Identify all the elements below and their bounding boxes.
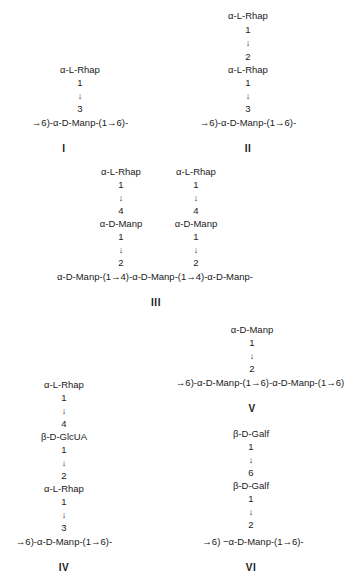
linkage-arrow-icon: ↓ [246,37,251,49]
linkage-arrow-icon: ↓ [194,244,199,256]
linkage-arrow-icon: ↓ [62,405,67,417]
residue-rhap: α-L-Rhap [44,483,84,495]
residue-manp: α-D-Manp [175,218,217,230]
residue-rhap: α-L-Rhap [176,166,216,178]
residue-manp: α-D-Manp [100,218,142,230]
linkage-position: 1 [193,179,198,191]
linkage-arrow-icon: ↓ [194,192,199,204]
structure-label: V [248,403,255,415]
structure-label: IV [59,562,69,574]
backbone: →6)-α-D-Manp-(1→6)- [32,117,128,129]
structure-label: VI [246,562,256,574]
linkage-arrow-icon: ↓ [250,350,255,362]
linkage-arrow-icon: ↓ [62,457,67,469]
structure-label: III [151,297,161,309]
structure-label: I [62,143,65,155]
linkage-arrow-icon: ↓ [119,244,124,256]
linkage-position: 1 [248,493,253,505]
residue-rhap: α-L-Rhap [44,379,84,391]
linkage-position: 4 [193,205,198,217]
backbone: →6) −α-D-Manp-(1→6)- [202,536,303,548]
linkage-position: 3 [61,522,66,534]
linkage-position: 1 [248,441,253,453]
linkage-position: 1 [249,337,254,349]
linkage-position: 2 [245,51,250,63]
linkage-arrow-icon: ↓ [78,90,83,102]
linkage-arrow-icon: ↓ [246,90,251,102]
linkage-arrow-icon: ↓ [119,192,124,204]
linkage-position: 4 [118,205,123,217]
linkage-arrow-icon: ↓ [62,509,67,521]
structure-label: II [245,143,252,155]
linkage-position: 2 [118,257,123,269]
linkage-position: 2 [248,519,253,531]
linkage-position: 4 [61,418,66,430]
linkage-position: 1 [118,179,123,191]
residue-glcua: β-D-GlcUA [41,431,87,443]
linkage-position: 1 [61,444,66,456]
linkage-position: 2 [61,470,66,482]
residue-rhap: α-L-Rhap [228,10,268,22]
linkage-position: 1 [245,77,250,89]
linkage-position: 1 [61,392,66,404]
residue-galf: β-D-Galf [233,428,269,440]
residue-manp: α-D-Manp [231,324,273,336]
linkage-position: 1 [61,496,66,508]
residue-galf: β-D-Galf [233,480,269,492]
linkage-arrow-icon: ↓ [249,506,254,518]
linkage-arrow-icon: ↓ [249,454,254,466]
linkage-position: 1 [118,231,123,243]
linkage-position: 3 [77,103,82,115]
linkage-position: 2 [193,257,198,269]
linkage-position: 3 [245,103,250,115]
linkage-position: 6 [248,467,253,479]
residue-rhap: α-L-Rhap [228,64,268,76]
linkage-position: 1 [245,24,250,36]
linkage-position: 1 [193,231,198,243]
residue-rhap: α-L-Rhap [101,166,141,178]
backbone: →6)-α-D-Manp-(1→6)- [200,117,296,129]
linkage-position: 2 [249,363,254,375]
backbone: α-D-Manp-(1→4)-α-D-Manp-(1→4)-α-D-Manp- [57,271,253,283]
linkage-position: 1 [77,77,82,89]
backbone: →6)-α-D-Manp-(1→6)-α-D-Manp-(1→6) [176,377,344,389]
backbone: →6)-α-D-Manp-(1→6)- [16,536,112,548]
residue-rhap: α-L-Rhap [60,64,100,76]
